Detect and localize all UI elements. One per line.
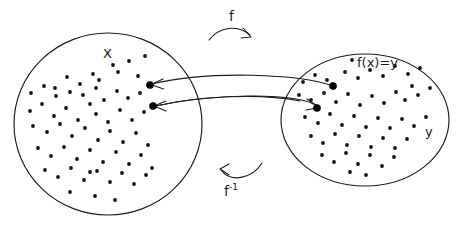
set-y-element-dot <box>356 162 360 166</box>
set-y-element-dot <box>358 103 362 107</box>
set-y-element-dot <box>369 145 373 149</box>
set-x-element-dot <box>31 124 35 128</box>
set-x-element-dot <box>88 148 92 152</box>
set-x-element-dot <box>62 145 66 149</box>
set-x-element-dot <box>82 178 86 182</box>
set-y-element-dot <box>316 121 320 125</box>
set-y-element-dot <box>370 94 374 98</box>
set-y-outline <box>281 54 449 186</box>
set-y-element-dot <box>368 153 372 157</box>
set-y-element-dot <box>350 58 354 62</box>
set-x-element-dot <box>76 118 80 122</box>
set-x-element-dot <box>101 160 105 164</box>
set-x-element-dot <box>118 108 122 112</box>
function-mapping-diagram: X y f(x)=y f f-1 <box>0 0 464 233</box>
set-y-element-dot <box>348 170 352 174</box>
set-y-element-dot <box>303 115 307 119</box>
set-y-element-dot <box>405 137 409 141</box>
set-x-element-dot <box>83 126 87 130</box>
inverse-map-label: f-1 <box>224 182 238 199</box>
set-y-element-dot <box>320 153 324 157</box>
set-x-element-dot <box>96 138 100 142</box>
set-x-element-dot <box>127 162 131 166</box>
set-x-element-dot <box>81 93 85 97</box>
set-x-label: X <box>103 46 112 61</box>
set-x-element-dot <box>143 54 147 58</box>
set-x-element-dot <box>138 91 142 95</box>
set-x-element-dot <box>116 70 120 74</box>
set-y-element-dot <box>393 146 397 150</box>
set-x-element-dot <box>70 134 74 138</box>
set-y-element-dot <box>332 160 336 164</box>
image-equation-label: f(x)=y <box>357 55 398 70</box>
set-y-elements <box>297 58 432 177</box>
set-x-element-dot <box>150 166 154 170</box>
set-y-element-dot <box>380 164 384 168</box>
highlighted-element-dot <box>149 102 156 109</box>
set-y-element-dot <box>345 143 349 147</box>
set-x-element-dot <box>146 143 150 147</box>
set-x-element-dot <box>88 170 92 174</box>
forward-map-label: f <box>229 8 234 24</box>
set-x-element-dot <box>142 110 146 114</box>
set-x-element-dot <box>108 180 112 184</box>
set-y-element-dot <box>346 92 350 96</box>
set-y-element-dot <box>309 134 313 138</box>
set-x-element-dot <box>52 114 56 118</box>
set-x-element-dot <box>53 86 57 90</box>
set-y-label: y <box>425 124 433 139</box>
set-x-element-dot <box>93 194 97 198</box>
set-y-element-dot <box>403 98 407 102</box>
set-x-element-dot <box>36 146 40 150</box>
set-y-element-dot <box>410 84 414 88</box>
set-x-element-dot <box>111 63 115 67</box>
set-x-element-dot <box>45 130 49 134</box>
set-x-element-dot <box>114 150 118 154</box>
set-y-element-dot <box>416 93 420 97</box>
mapping-arrow-upper <box>152 75 333 86</box>
set-x-element-dot <box>115 89 119 93</box>
set-x-element-dot <box>139 153 143 157</box>
set-y-element-dot <box>424 115 428 119</box>
set-y-element-dot <box>392 155 396 159</box>
set-x-element-dot <box>29 91 33 95</box>
set-x-element-dot <box>68 190 72 194</box>
set-x-element-dot <box>68 90 72 94</box>
set-y-element-dot <box>313 73 317 77</box>
forward-map-arrowhead <box>241 28 251 38</box>
set-x-element-dot <box>42 84 46 88</box>
set-x-element-dot <box>28 109 32 113</box>
set-x-element-dot <box>91 72 95 76</box>
set-x-element-dot <box>130 118 134 122</box>
set-y-element-dot <box>376 116 380 120</box>
highlighted-element-dot <box>329 82 336 89</box>
set-y-element-dot <box>364 173 368 177</box>
set-x-element-dot <box>94 112 98 116</box>
set-x-element-dot <box>106 120 110 124</box>
set-y-element-dot <box>322 91 326 95</box>
set-x-element-dot <box>49 154 53 158</box>
set-y-element-dot <box>321 141 325 145</box>
set-y-element-dot <box>301 80 305 84</box>
set-y-element-dot <box>340 123 344 127</box>
set-y-element-dot <box>412 124 416 128</box>
set-x-element-dot <box>54 94 58 98</box>
set-x-element-dot <box>108 129 112 133</box>
set-x-element-dot <box>78 82 82 86</box>
set-y-element-dot <box>418 66 422 70</box>
set-y-element-dot <box>406 72 410 76</box>
set-x-element-dot <box>69 166 73 170</box>
set-y-element-dot <box>381 136 385 140</box>
highlighted-element-dot <box>146 81 153 88</box>
set-x-element-dot <box>56 175 60 179</box>
set-y-element-dot <box>333 132 337 136</box>
set-x-element-dot <box>94 86 98 90</box>
set-y-element-dot <box>357 134 361 138</box>
set-x-elements <box>28 54 155 202</box>
set-x-element-dot <box>102 98 106 102</box>
inverse-map-exponent: -1 <box>229 182 238 192</box>
set-y-element-dot <box>394 90 398 94</box>
set-x-element-dot <box>126 96 130 100</box>
set-y-element-dot <box>388 126 392 130</box>
set-y-element-dot <box>364 125 368 129</box>
